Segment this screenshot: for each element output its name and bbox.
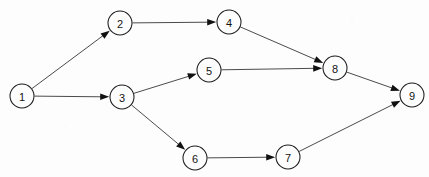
arrowhead-icon — [313, 65, 322, 72]
edge-shaft — [32, 35, 104, 88]
arrowhead-icon — [101, 31, 110, 39]
graph-node-2[interactable]: 2 — [108, 11, 132, 35]
graph-node-6[interactable]: 6 — [183, 146, 207, 170]
arrowhead-icon — [390, 85, 400, 91]
edge-shaft — [347, 72, 393, 88]
graph-node-8[interactable]: 8 — [323, 56, 347, 80]
edge-shaft — [132, 105, 180, 145]
edge-shaft — [299, 104, 394, 151]
node-label: 8 — [332, 63, 338, 75]
arrowhead-icon — [187, 73, 197, 79]
edge-shaft — [222, 68, 315, 69]
graph-node-5[interactable]: 5 — [197, 58, 221, 82]
edge-4-to-8 — [240, 27, 323, 63]
node-label: 5 — [206, 65, 212, 77]
edge-7-to-9 — [299, 101, 400, 152]
arrowhead-icon — [100, 93, 109, 100]
edge-3-to-5 — [134, 73, 197, 93]
diagram-canvas: 123456789 — [0, 0, 429, 177]
edge-shaft — [133, 22, 209, 23]
edge-1-to-2 — [32, 31, 110, 89]
edge-8-to-9 — [347, 72, 400, 91]
node-label: 3 — [119, 92, 125, 104]
directed-graph: 123456789 — [0, 0, 429, 177]
edge-2-to-4 — [133, 19, 217, 26]
arrowhead-icon — [266, 154, 275, 161]
edge-shaft — [35, 96, 102, 97]
node-label: 4 — [226, 17, 232, 29]
edge-layer — [32, 19, 401, 161]
edge-shaft — [208, 157, 268, 158]
arrowhead-icon — [207, 19, 216, 26]
node-label: 1 — [19, 91, 25, 103]
node-label: 2 — [117, 18, 123, 30]
graph-node-3[interactable]: 3 — [110, 85, 134, 109]
node-label: 6 — [192, 153, 198, 165]
edge-5-to-8 — [222, 65, 323, 72]
edge-3-to-6 — [132, 105, 186, 150]
edge-6-to-7 — [208, 154, 276, 161]
graph-node-1[interactable]: 1 — [10, 84, 34, 108]
arrowhead-icon — [391, 101, 401, 108]
node-layer: 123456789 — [10, 10, 424, 170]
edge-shaft — [240, 27, 316, 60]
graph-node-7[interactable]: 7 — [276, 145, 300, 169]
edge-1-to-3 — [35, 93, 110, 100]
edge-shaft — [134, 76, 190, 93]
graph-node-9[interactable]: 9 — [400, 83, 424, 107]
arrowhead-icon — [176, 141, 185, 149]
arrowhead-icon — [314, 56, 324, 63]
node-label: 7 — [285, 152, 291, 164]
graph-node-4[interactable]: 4 — [217, 10, 241, 34]
node-label: 9 — [409, 90, 415, 102]
